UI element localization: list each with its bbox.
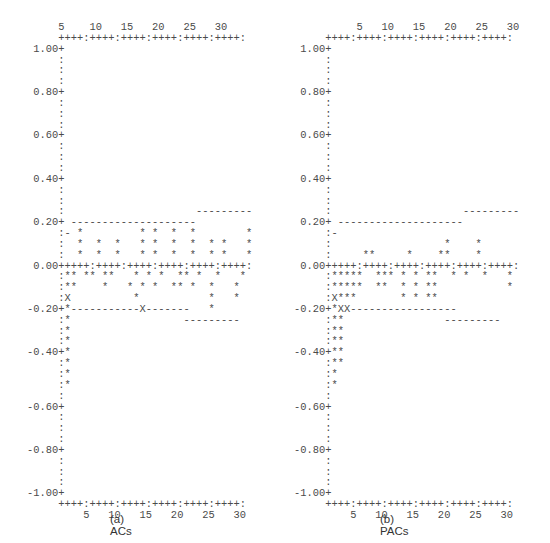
acf-caption: (a) ACs xyxy=(110,513,132,537)
plot-line: : xyxy=(294,109,519,120)
plot-line: :* --------- xyxy=(27,315,252,326)
plot-line: 1.00+ xyxy=(27,44,252,55)
plot-line: :** --------- xyxy=(294,315,519,326)
pacf-caption: (b) PACs xyxy=(380,513,409,537)
plot-line: : xyxy=(294,391,519,402)
pacf-ascii-plot: 5 10 15 20 25 30 ++++:++++:++++:++++:+++… xyxy=(294,22,519,521)
plot-line: : xyxy=(27,185,252,196)
plot-line: : ** * ** * xyxy=(294,250,519,261)
acf-ascii-plot: 5 10 15 20 25 30 ++++:++++:++++:++++:+++… xyxy=(27,22,252,521)
plot-line: : xyxy=(294,185,519,196)
plot-line: 5 10 15 20 25 30 xyxy=(27,510,252,521)
plot-line: : * * * * * * * * * * xyxy=(27,250,252,261)
plot-line: : xyxy=(27,391,252,402)
plot-line: : xyxy=(27,109,252,120)
plot-line: : xyxy=(294,456,519,467)
plot-line: 1.00+ xyxy=(294,44,519,55)
plot-line: : xyxy=(27,456,252,467)
